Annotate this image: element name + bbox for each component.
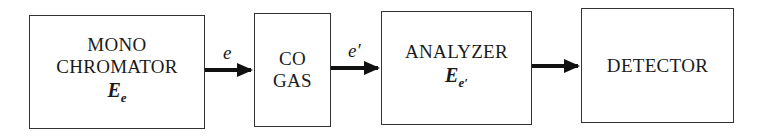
arrow-gas-to-analyzer xyxy=(331,66,378,70)
arrow-analyzer-to-detector xyxy=(532,64,578,68)
co-gas-label-line1: CO xyxy=(279,48,306,70)
monochromator-label-line2: CHROMATOR xyxy=(56,56,178,78)
analyzer-block: ANALYZER Ee′ xyxy=(381,11,532,125)
monochromator-block: MONO CHROMATOR Ee xyxy=(29,15,205,129)
arrow-mono-to-gas xyxy=(205,68,251,72)
monochromator-label-line1: MONO xyxy=(87,34,146,56)
arrow-label-e-prime: e′ xyxy=(348,40,361,62)
co-gas-label-line2: GAS xyxy=(273,70,312,92)
detector-block: DETECTOR xyxy=(581,8,734,123)
co-gas-block: CO GAS xyxy=(254,13,331,127)
arrow-label-e: e xyxy=(223,42,231,64)
analyzer-energy-symbol: Ee′ xyxy=(445,63,468,95)
monochromator-energy-symbol: Ee xyxy=(107,78,126,110)
detector-label: DETECTOR xyxy=(607,55,708,77)
analyzer-label: ANALYZER xyxy=(405,41,508,63)
